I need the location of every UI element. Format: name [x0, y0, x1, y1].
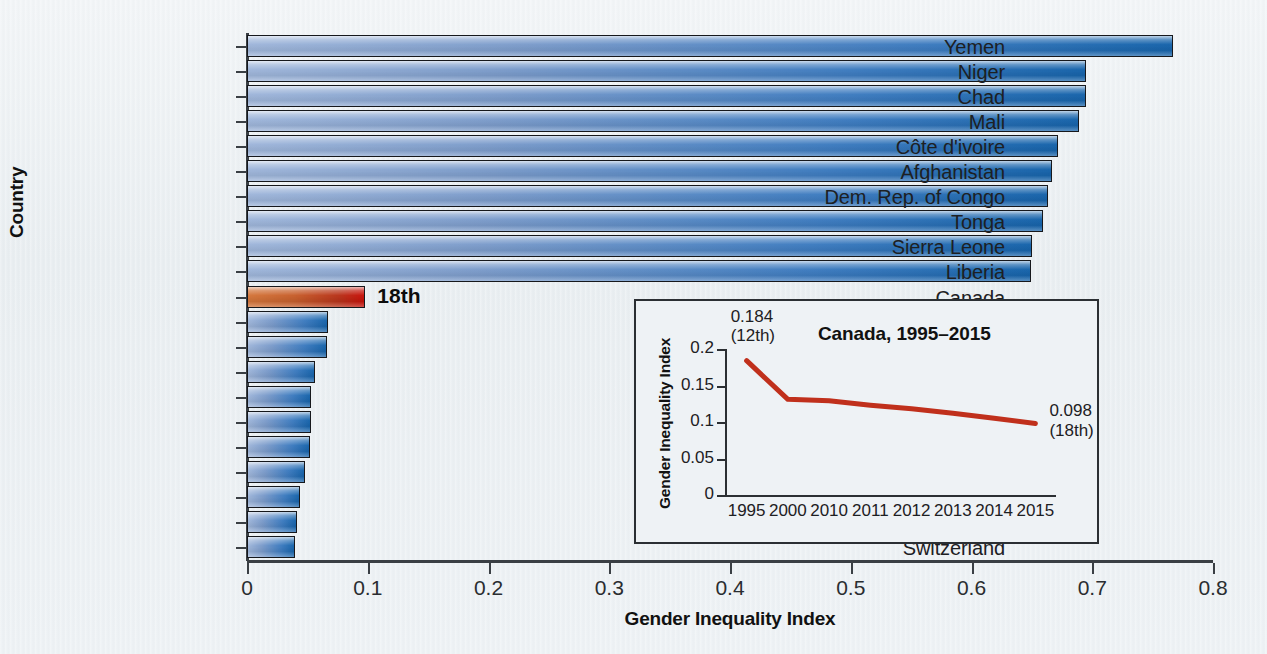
x-axis-title: Gender Inequality Index: [247, 608, 1213, 630]
y-tick: [236, 146, 247, 148]
inset-x-tick-label: 2011: [852, 501, 889, 521]
x-tick: [368, 563, 370, 574]
bar-finland[interactable]: [247, 361, 315, 383]
y-tick: [236, 271, 247, 273]
category-label: Afghanistan: [900, 161, 1005, 184]
category-label: Côte d'ivoire: [896, 136, 1005, 159]
y-tick: [236, 46, 247, 48]
x-tick: [489, 563, 491, 574]
y-tick: [236, 547, 247, 549]
bar-sweden[interactable]: [247, 461, 305, 483]
category-label: Liberia: [946, 261, 1005, 284]
y-tick: [236, 522, 247, 524]
inset-x-tick-label: 2013: [934, 501, 972, 521]
x-tick-label: 0.7: [1078, 576, 1107, 600]
inset-x-tick-label: 2010: [810, 501, 848, 521]
bar-annotation-18th: 18th: [377, 284, 420, 308]
inset-x-tick-label: 2012: [893, 501, 931, 521]
inset-y-tick-label: 0.05: [681, 448, 714, 468]
bar-tonga[interactable]: [247, 210, 1043, 232]
inset-y-axis-title: Gender Inequality Index: [656, 338, 674, 509]
inset-x-tick-label: 2015: [1016, 501, 1054, 521]
category-label: Mali: [969, 111, 1005, 134]
inset-annotation-value: 0.098: [1049, 401, 1093, 421]
inset-plot-area: 00.050.10.150.2 199520002010201120122013…: [726, 349, 1056, 495]
inset-y-tick: [717, 459, 726, 461]
x-tick: [851, 563, 853, 574]
x-tick-label: 0: [241, 576, 253, 600]
bar-iceland[interactable]: [247, 436, 310, 458]
y-tick: [236, 447, 247, 449]
x-tick-label: 0.4: [715, 576, 744, 600]
inset-annotation-rank: (12th): [731, 326, 775, 346]
y-tick: [236, 497, 247, 499]
inset-y-tick-label: 0.15: [681, 375, 714, 395]
bar-mali[interactable]: [247, 110, 1079, 132]
x-tick-label: 0.2: [474, 576, 503, 600]
inset-y-tick: [717, 349, 726, 351]
x-tick-label: 0.3: [595, 576, 624, 600]
inset-annotation: 0.184(12th): [731, 307, 775, 346]
inset-x-axis-line: [725, 495, 1056, 497]
inset-x-tick-label: 1995: [728, 501, 766, 521]
y-tick: [236, 221, 247, 223]
bar-slovenia[interactable]: [247, 386, 311, 408]
y-tick: [236, 422, 247, 424]
bar-liberia[interactable]: [247, 260, 1031, 282]
y-tick: [236, 297, 247, 299]
category-label: Dem. Rep. of Congo: [824, 186, 1005, 209]
y-tick: [236, 71, 247, 73]
x-tick: [1213, 563, 1215, 574]
inset-y-tick-label: 0: [705, 484, 714, 504]
x-tick: [247, 563, 249, 574]
x-tick: [1092, 563, 1094, 574]
y-tick: [236, 246, 247, 248]
x-tick-label: 0.8: [1198, 576, 1227, 600]
x-tick: [730, 563, 732, 574]
category-label: Niger: [958, 61, 1005, 84]
x-tick-label: 0.6: [957, 576, 986, 600]
y-axis-title: Country: [6, 167, 28, 238]
bar-germany[interactable]: [247, 336, 327, 358]
category-label: Tonga: [951, 211, 1005, 234]
y-tick: [236, 322, 247, 324]
y-tick: [236, 397, 247, 399]
y-tick: [236, 347, 247, 349]
y-tick: [236, 196, 247, 198]
bar-denmark[interactable]: [247, 511, 297, 533]
bar-yemen[interactable]: [247, 35, 1173, 57]
inset-line-path: [747, 361, 1036, 424]
inset-x-tick-label: 2000: [769, 501, 807, 521]
inset-annotation-rank: (18th): [1049, 421, 1093, 441]
x-tick: [972, 563, 974, 574]
inset-y-tick: [717, 495, 726, 497]
y-tick: [236, 171, 247, 173]
inset-chart: Canada, 1995–2015 Gender Inequality Inde…: [634, 299, 1099, 544]
inset-y-tick-label: 0.1: [690, 411, 714, 431]
bar-switzerland[interactable]: [247, 536, 295, 558]
y-tick: [236, 472, 247, 474]
bar-canada[interactable]: [247, 286, 365, 308]
inset-y-tick-label: 0.2: [690, 338, 714, 358]
inset-annotation: 0.098(18th): [1049, 401, 1093, 440]
inset-y-tick: [717, 422, 726, 424]
inset-title: Canada, 1995–2015: [818, 323, 991, 345]
y-tick: [236, 96, 247, 98]
y-tick: [236, 121, 247, 123]
category-label: Chad: [958, 86, 1005, 109]
category-label: Sierra Leone: [892, 236, 1005, 259]
category-label: Yemen: [944, 36, 1005, 59]
figure-canvas: Country 18th 00.10.20.30.40.50.60.70.8 G…: [0, 0, 1267, 654]
inset-annotation-value: 0.184: [731, 307, 775, 327]
inset-x-tick-label: 2014: [975, 501, 1013, 521]
inset-y-tick: [717, 386, 726, 388]
x-tick-label: 0.1: [353, 576, 382, 600]
bar-republic-of-korea[interactable]: [247, 311, 328, 333]
bar-netherlands[interactable]: [247, 486, 300, 508]
y-tick: [236, 372, 247, 374]
x-tick-label: 0.5: [836, 576, 865, 600]
bar-norway[interactable]: [247, 411, 311, 433]
inset-line-series: [726, 349, 1056, 495]
x-tick: [609, 563, 611, 574]
